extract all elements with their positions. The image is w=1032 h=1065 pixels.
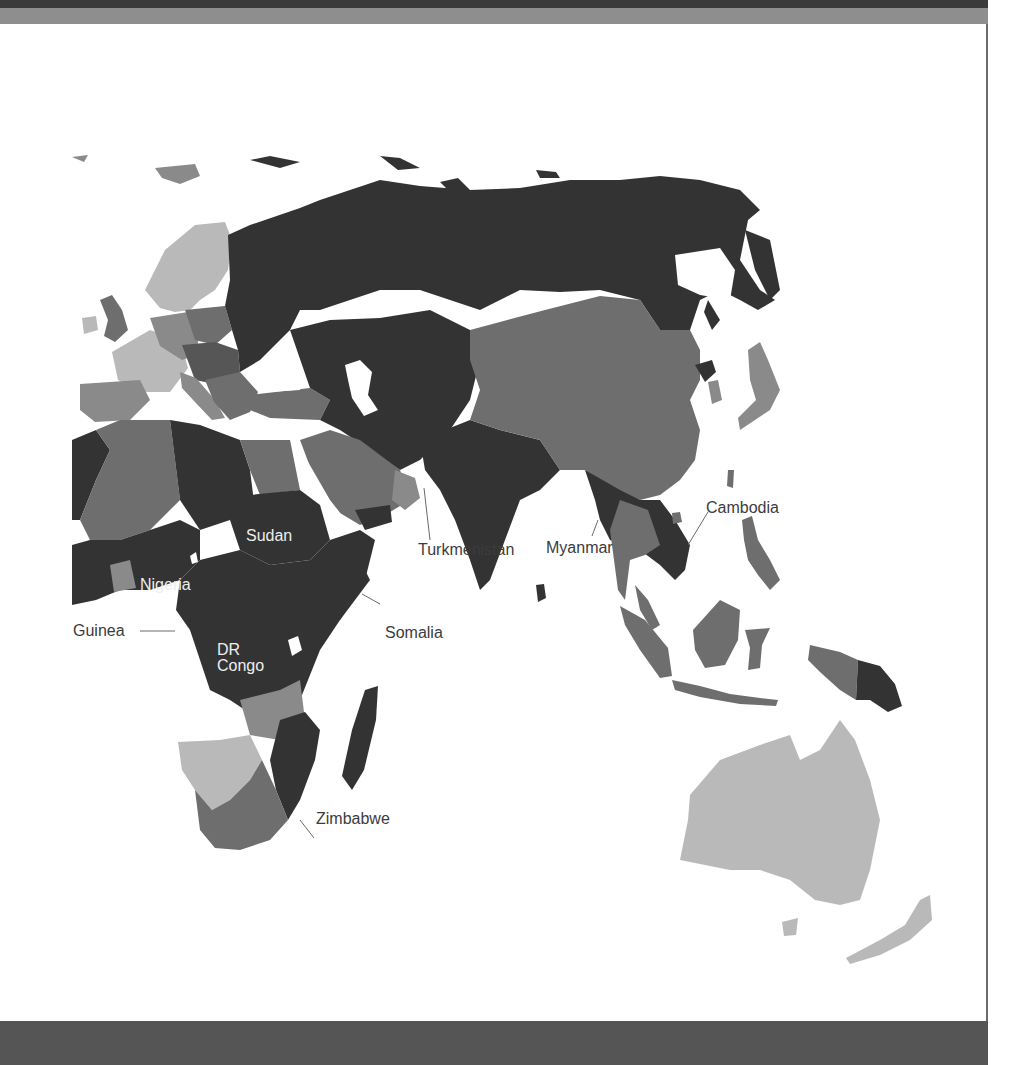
region-sri-lanka [536, 584, 546, 602]
region-japan [738, 342, 780, 430]
region-ireland [82, 316, 98, 334]
label-somalia: Somalia [385, 624, 443, 642]
footer-dark-band [0, 1021, 988, 1065]
label-zimbabwe: Zimbabwe [316, 810, 390, 828]
arctic-islands-light [72, 155, 200, 184]
region-philippines [742, 516, 780, 590]
region-west-papua [808, 645, 858, 700]
region-india [420, 420, 560, 590]
label-cambodia: Cambodia [706, 499, 779, 517]
region-australia [680, 720, 880, 905]
label-turkmenistan: Turkmenistan [418, 541, 514, 559]
leader-somalia [362, 594, 380, 604]
sea-black [256, 366, 305, 392]
label-sudan: Sudan [246, 527, 292, 545]
label-nigeria: Nigeria [140, 576, 191, 594]
leader-zimbabwe [300, 820, 314, 838]
region-scandinavia [145, 222, 232, 312]
region-south-korea [708, 380, 722, 404]
leader-cambodia [688, 512, 708, 545]
region-sulawesi [745, 628, 770, 670]
header-dark-bar [0, 0, 988, 8]
page-frame: Turkmenistan Myanmar Cambodia Sudan Nige… [0, 0, 988, 1065]
map-svg [0, 24, 986, 1021]
label-myanmar: Myanmar [546, 539, 613, 557]
leader-turkmenistan [424, 488, 430, 540]
leader-myanmar [592, 520, 598, 536]
region-madagascar [342, 686, 378, 790]
choropleth-map: Turkmenistan Myanmar Cambodia Sudan Nige… [0, 24, 986, 1021]
region-java [672, 680, 778, 706]
region-new-zealand [846, 895, 932, 964]
region-taiwan [727, 470, 734, 488]
label-guinea: Guinea [73, 622, 125, 640]
region-tasmania [782, 918, 798, 936]
region-uk [100, 295, 128, 342]
region-hainan [672, 512, 682, 524]
region-iberia [80, 380, 150, 422]
header-gray-band [0, 8, 988, 24]
region-borneo [693, 600, 740, 668]
label-dr-congo-line2: Congo [217, 657, 264, 675]
region-papua-new-guinea [856, 660, 902, 712]
region-sakhalin [704, 300, 720, 330]
